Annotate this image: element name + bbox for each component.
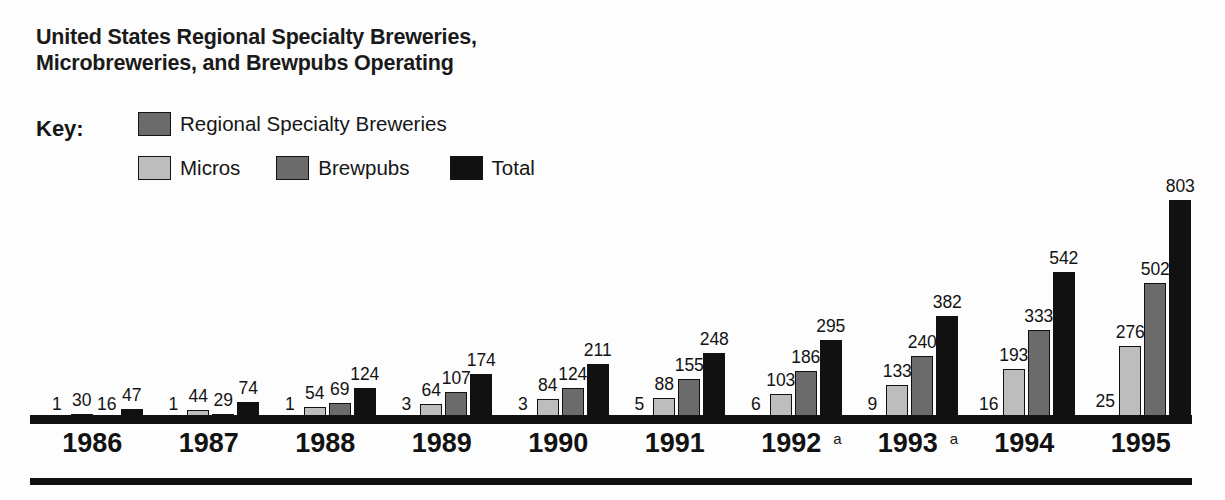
legend-label-total: Total (492, 156, 535, 180)
legend-swatch-regional-specialty-breweries (138, 112, 171, 136)
bar-1995-brewpubs (1144, 283, 1166, 422)
year-label-1993: 1993 (878, 428, 938, 459)
bar-1991-total (703, 353, 725, 422)
bar-value-label: 3 (518, 394, 528, 415)
bar-value-label: 502 (1141, 259, 1170, 280)
bar-value-label: 9 (867, 394, 877, 415)
bar-value-label: 64 (422, 380, 441, 401)
bar-value-label: 16 (97, 394, 116, 415)
bar-value-label: 542 (1049, 248, 1078, 269)
year-label-1986: 1986 (62, 428, 122, 459)
bar-value-label: 155 (675, 355, 704, 376)
legend-item-total: Total (450, 156, 535, 180)
bar-value-label: 25 (1096, 391, 1115, 412)
bar-value-label: 133 (883, 361, 912, 382)
bar-value-label: 240 (908, 332, 937, 353)
bar-value-label: 333 (1024, 306, 1053, 327)
bar-group-1987: 1442974 (147, 200, 264, 422)
bar-value-label: 30 (72, 390, 91, 411)
bar-1992-total (820, 340, 842, 422)
year-label-1990: 1990 (528, 428, 588, 459)
bar-group-1992: 6103186295 (729, 200, 846, 422)
bar-group-1990: 384124211 (496, 200, 613, 422)
bar-value-label: 803 (1166, 176, 1195, 197)
year-label-1989: 1989 (412, 428, 472, 459)
bar-value-label: 44 (189, 386, 208, 407)
bar-1990-total (587, 364, 609, 422)
bar-value-label: 276 (1116, 322, 1145, 343)
bar-group-1994: 16193333542 (962, 200, 1079, 422)
bar-1994-micros (1003, 369, 1025, 422)
year-label-1988: 1988 (295, 428, 355, 459)
bar-value-label: 248 (700, 329, 729, 350)
bar-value-label: 29 (214, 390, 233, 411)
bar-1993-brewpubs (911, 356, 933, 422)
axis-baseline (30, 415, 1192, 424)
bar-value-label: 186 (791, 347, 820, 368)
bar-group-1988: 15469124 (263, 200, 380, 422)
axis-bottom-rule (30, 478, 1192, 485)
legend-row-1: Regional Specialty Breweries (138, 112, 447, 136)
bar-1995-micros (1119, 346, 1141, 422)
bar-value-label: 84 (538, 375, 557, 396)
legend-swatch-brewpubs (276, 156, 309, 180)
bar-value-label: 1 (52, 394, 62, 415)
year-label-1992: 1992 (761, 428, 821, 459)
page-title: United States Regional Specialty Breweri… (36, 24, 796, 76)
bar-value-label: 88 (655, 374, 674, 395)
bar-value-label: 69 (330, 379, 349, 400)
year-footnote-1993: a (950, 430, 958, 447)
legend-label-micros: Micros (180, 156, 240, 180)
bar-value-label: 174 (467, 350, 496, 371)
legend-item-micros: Micros (138, 156, 240, 180)
year-label-1995: 1995 (1111, 428, 1171, 459)
bar-value-label: 295 (816, 316, 845, 337)
legend-key-label: Key: (36, 116, 84, 142)
bar-group-1989: 364107174 (380, 200, 497, 422)
bar-value-label: 47 (122, 385, 141, 406)
year-label-1987: 1987 (179, 428, 239, 459)
bar-group-1993: 9133240382 (846, 200, 963, 422)
bar-1994-brewpubs (1028, 330, 1050, 422)
legend-item-regional-specialty-breweries: Regional Specialty Breweries (138, 112, 447, 136)
bar-value-label: 103 (766, 370, 795, 391)
year-label-1991: 1991 (645, 428, 705, 459)
legend-label-regional-specialty-breweries: Regional Specialty Breweries (180, 112, 447, 136)
legend-item-brewpubs: Brewpubs (276, 156, 409, 180)
legend-swatch-micros (138, 156, 171, 180)
year-label-1994: 1994 (994, 428, 1054, 459)
chart-page: United States Regional Specialty Breweri… (0, 0, 1225, 500)
bar-value-label: 1 (168, 394, 178, 415)
bar-group-1991: 588155248 (613, 200, 730, 422)
bar-value-label: 107 (442, 368, 471, 389)
bar-value-label: 124 (350, 364, 379, 385)
bar-1995-total (1169, 200, 1191, 422)
legend-row-2: Micros Brewpubs Total (138, 156, 535, 180)
bar-value-label: 6 (751, 394, 761, 415)
year-footnote-1992: a (833, 430, 841, 447)
bar-value-label: 54 (305, 383, 324, 404)
bar-group-1995: 25276502803 (1079, 200, 1196, 422)
bar-value-label: 3 (401, 394, 411, 415)
title-line-1: United States Regional Specialty Breweri… (36, 24, 796, 50)
bar-value-label: 382 (933, 292, 962, 313)
legend-label-brewpubs: Brewpubs (318, 156, 409, 180)
bar-value-label: 1 (285, 394, 295, 415)
bar-1994-total (1053, 272, 1075, 422)
bar-value-label: 5 (634, 394, 644, 415)
bar-1993-total (936, 316, 958, 422)
bar-chart-plot-area: 1301647144297415469124364107174384124211… (30, 200, 1195, 422)
bar-group-1986: 1301647 (30, 200, 147, 422)
x-axis-year-labels: 1986198719881989199019911992a1993a199419… (30, 428, 1195, 470)
legend-swatch-total (450, 156, 483, 180)
title-line-2: Microbreweries, and Brewpubs Operating (36, 50, 796, 76)
bar-value-label: 74 (239, 378, 258, 399)
bar-value-label: 124 (558, 364, 587, 385)
bar-value-label: 193 (999, 345, 1028, 366)
bar-value-label: 211 (584, 340, 612, 361)
bar-value-label: 16 (979, 394, 998, 415)
